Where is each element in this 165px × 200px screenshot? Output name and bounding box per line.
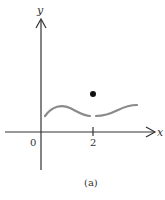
filled-point bbox=[90, 91, 96, 97]
origin-label: 0 bbox=[30, 137, 36, 148]
figure-caption: (a) bbox=[84, 177, 98, 188]
function-graph: y x 0 2 (a) bbox=[0, 0, 165, 200]
x-axis-label: x bbox=[157, 126, 164, 139]
y-axis-label: y bbox=[36, 4, 44, 17]
curve-left bbox=[45, 106, 90, 116]
tick-label-2: 2 bbox=[90, 137, 96, 148]
curve-right bbox=[96, 105, 137, 116]
